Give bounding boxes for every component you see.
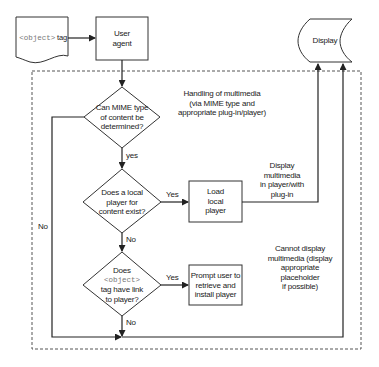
handling-annotation: Handling of multimedia (via MIME type an… xyxy=(172,89,272,118)
load-local-player-label: Load local player xyxy=(189,187,242,216)
edge-label-mime-yes: yes xyxy=(126,151,138,161)
object-tag-code: <object> xyxy=(19,34,55,42)
user-agent-label: User agent xyxy=(96,29,148,48)
decision-link-label: Does <object> tag have link to player? xyxy=(87,266,157,304)
display-label: Display xyxy=(298,36,352,46)
prompt-user-label: Prompt user to retrieve and install play… xyxy=(186,271,245,300)
decision-mime-label: Can MIME type of content be determined? xyxy=(87,103,157,132)
cannot-display-annotation: Cannot display multimedia (display appro… xyxy=(262,244,338,292)
edge-label-local-no: No xyxy=(126,235,136,245)
object-tag-text: tag xyxy=(55,33,67,42)
edge-label-link-yes: Yes xyxy=(166,273,178,283)
edge-label-mime-no: No xyxy=(38,222,48,232)
object-tag-label: <object> tag xyxy=(17,33,69,44)
edge-label-local-yes: Yes xyxy=(166,190,178,200)
decision-local-player-label: Does a local player for content exist? xyxy=(87,188,157,217)
flowchart-canvas xyxy=(0,0,379,367)
display-multimedia-annotation: Display multimedia in player/with plug-i… xyxy=(255,161,309,199)
edge-label-link-no: No xyxy=(126,318,136,328)
